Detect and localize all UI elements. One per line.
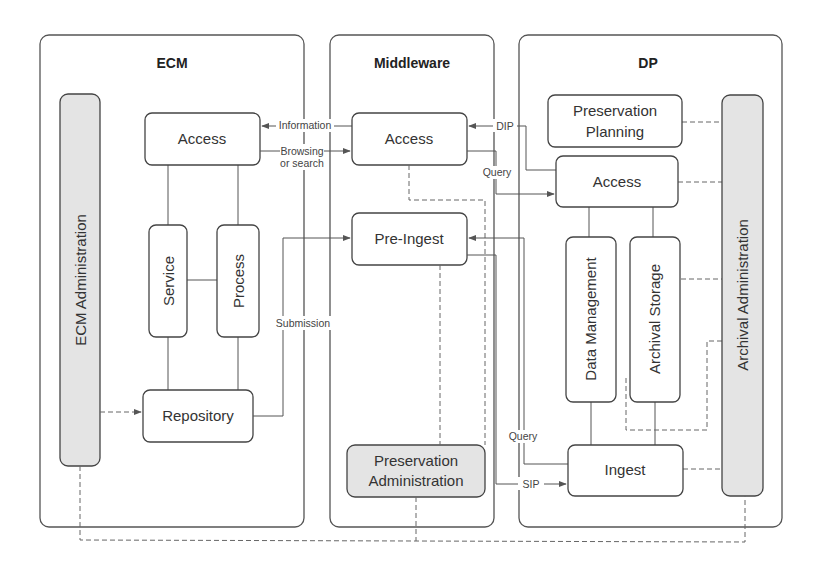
preservation-administration-label-2: Administration — [368, 472, 463, 489]
architecture-diagram: ECM Middleware DP ECM Administration Acc… — [0, 0, 819, 567]
preservation-administration-label-1: Preservation — [374, 452, 458, 469]
sip-label: SIP — [523, 478, 540, 490]
archival-administration-label: Archival Administration — [734, 219, 751, 371]
ecm-administration-label: ECM Administration — [72, 214, 89, 346]
ecm-repository[interactable]: Repository — [143, 390, 253, 442]
archival-storage-label: Archival Storage — [646, 264, 663, 374]
preservation-planning-label-2: Planning — [586, 123, 644, 140]
ecm-process[interactable]: Process — [217, 225, 259, 337]
browsing-label-1: Browsing — [280, 145, 323, 157]
data-management-label: Data Management — [582, 256, 599, 380]
ecm-access-label: Access — [178, 130, 226, 147]
pre-ingest[interactable]: Pre-Ingest — [352, 213, 467, 265]
ecm-repository-label: Repository — [162, 407, 234, 424]
middleware-access-label: Access — [385, 130, 433, 147]
archival-storage[interactable]: Archival Storage — [630, 237, 680, 402]
preservation-planning-label-1: Preservation — [573, 102, 657, 119]
ecm-service-label: Service — [160, 256, 177, 306]
query-top-label: Query — [483, 166, 512, 178]
submission-label: Submission — [276, 317, 330, 329]
archival-administration[interactable]: Archival Administration — [722, 95, 763, 496]
dp-title: DP — [638, 55, 657, 71]
middleware-title: Middleware — [374, 55, 450, 71]
dp-access[interactable]: Access — [556, 156, 678, 207]
ecm-service[interactable]: Service — [149, 225, 187, 337]
ecm-title: ECM — [156, 55, 187, 71]
preservation-planning[interactable]: Preservation Planning — [548, 95, 682, 147]
dip-label: DIP — [496, 120, 514, 132]
browsing-label-2: or search — [280, 157, 324, 169]
information-label: Information — [279, 119, 332, 131]
dp-access-label: Access — [593, 173, 641, 190]
ecm-administration[interactable]: ECM Administration — [60, 94, 100, 466]
query-bottom-label: Query — [509, 430, 538, 442]
dp-ingest[interactable]: Ingest — [568, 445, 683, 496]
dp-ingest-label: Ingest — [605, 461, 647, 478]
data-management[interactable]: Data Management — [566, 237, 616, 402]
pre-ingest-label: Pre-Ingest — [374, 230, 444, 247]
ecm-process-label: Process — [230, 254, 247, 308]
preservation-administration[interactable]: Preservation Administration — [347, 445, 485, 497]
ecm-access[interactable]: Access — [145, 113, 260, 165]
middleware-access[interactable]: Access — [352, 113, 467, 165]
